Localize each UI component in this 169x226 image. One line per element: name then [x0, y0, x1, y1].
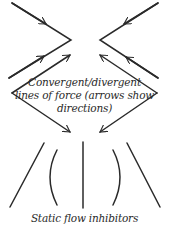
- upper-right-chevron: [100, 3, 158, 78]
- static-flow-inhibitors: [10, 142, 160, 208]
- upper-left-chevron: [9, 3, 71, 78]
- force-lines-caption: Convergent/divergent lines of force (arr…: [0, 76, 169, 115]
- arrow-icon: [12, 3, 46, 24]
- arrow-icon: [124, 3, 158, 24]
- inhibitor-left-arc: [50, 150, 57, 205]
- caption-line-1: Convergent/divergent: [0, 76, 169, 89]
- inhibitor-left-diagonal: [10, 143, 44, 207]
- caption-line-3: directions): [0, 102, 169, 115]
- caption-line-2: lines of force (arrows show: [0, 89, 169, 102]
- inhibitor-caption: Static flow inhibitors: [0, 212, 169, 225]
- inhibitor-right-arc: [113, 150, 120, 205]
- inhibitor-right-diagonal: [127, 143, 160, 207]
